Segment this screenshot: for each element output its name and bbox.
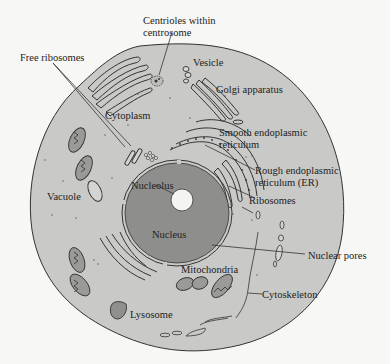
label-smooth-er-line1: Smooth endoplasmic	[219, 127, 307, 138]
label-nuclear-pores: Nuclear pores	[308, 250, 367, 261]
label-lysosome: Lysosome	[130, 309, 173, 320]
nucleolus	[171, 189, 193, 211]
label-centrioles-line1: Centrioles within	[143, 15, 216, 26]
label-centrioles-line2: centrosome	[143, 27, 191, 38]
label-ribosomes: Ribosomes	[249, 195, 296, 206]
label-vesicle: Vesicle	[193, 57, 223, 68]
label-nucleolus: Nucleolus	[131, 180, 174, 191]
label-smooth-er-line2: reticulum	[219, 139, 259, 150]
label-vacuole: Vacuole	[47, 191, 81, 202]
label-mitochondria: Mitochondria	[181, 264, 238, 275]
label-cytoskeleton: Cytoskeleton	[262, 289, 317, 300]
label-free-ribosomes: Free ribosomes	[20, 52, 84, 63]
label-golgi-apparatus: Golgi apparatus	[216, 84, 283, 95]
label-cytoplasm: Cytoplasm	[105, 110, 151, 121]
label-rough-er-line2: reticulum (ER)	[255, 177, 318, 188]
label-nucleus: Nucleus	[152, 229, 186, 240]
label-rough-er-line1: Rough endoplasmic	[255, 165, 339, 176]
